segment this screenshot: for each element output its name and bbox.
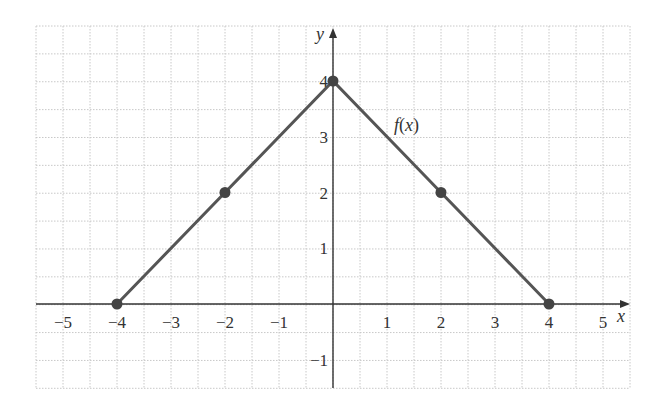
- x-axis-label: x: [616, 306, 625, 326]
- x-tick-label: 1: [383, 313, 392, 332]
- x-tick-label: −3: [162, 313, 180, 332]
- x-tick-label: 4: [545, 313, 554, 332]
- y-tick-label: 1: [320, 239, 329, 258]
- data-point-marker: [112, 299, 123, 310]
- data-point-marker: [328, 76, 339, 87]
- x-tick-label: 2: [437, 313, 446, 332]
- x-tick-label: −1: [270, 313, 288, 332]
- chart-canvas: −5−4−3−2−112345−11234 x y f(x): [0, 0, 664, 408]
- data-point-marker: [544, 299, 555, 310]
- data-point-marker: [220, 187, 231, 198]
- data-point-marker: [436, 187, 447, 198]
- y-tick-label: −1: [310, 351, 328, 370]
- x-tick-label: −5: [54, 313, 72, 332]
- x-tick-label: −4: [108, 313, 127, 332]
- y-axis-label: y: [314, 24, 324, 44]
- x-tick-label: 3: [491, 313, 500, 332]
- y-tick-label: 3: [320, 128, 329, 147]
- x-tick-label: 5: [599, 313, 608, 332]
- x-tick-label: −2: [216, 313, 234, 332]
- function-label: f(x): [394, 115, 419, 136]
- y-tick-label: 2: [320, 184, 329, 203]
